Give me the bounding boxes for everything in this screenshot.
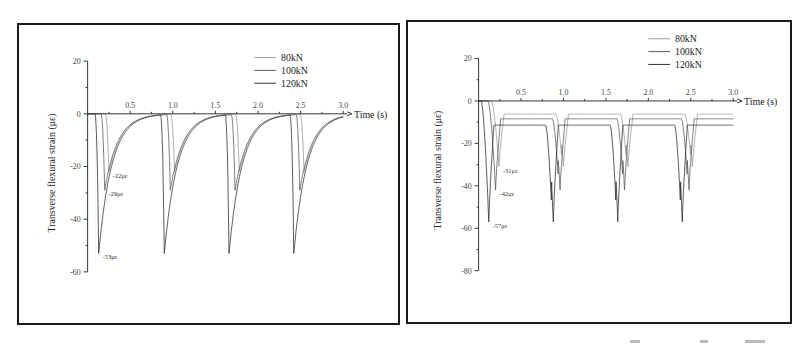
- x-tick-label: 1.0: [559, 88, 569, 97]
- series-line-80kN: [88, 114, 344, 172]
- peak-annotation: -29με: [109, 190, 124, 197]
- x-tick-label: 0.5: [125, 101, 135, 110]
- x-tick-label: 1.5: [601, 88, 611, 97]
- left-chart-panel: 200-20-40-600.51.01.52.02.53.0Time (s)Tr…: [17, 23, 400, 325]
- x-tick-label: 1.0: [168, 101, 178, 110]
- caption-fragment-mark: [630, 340, 640, 343]
- x-tick-label: 2.5: [296, 101, 306, 110]
- y-tick-label: 20: [73, 57, 81, 66]
- x-axis-arrow-icon: [347, 112, 352, 116]
- legend-label: 100kN: [281, 65, 308, 76]
- x-tick-label: 0.5: [516, 88, 526, 97]
- y-tick-label: -20: [461, 139, 472, 148]
- series-line-80kN: [479, 101, 734, 167]
- x-axis-arrow-icon: [737, 99, 742, 103]
- x-tick-label: 3.0: [338, 101, 348, 110]
- legend-label: 80kN: [281, 52, 303, 63]
- peak-annotation: -53με: [103, 253, 118, 260]
- y-tick-label: -20: [70, 162, 81, 171]
- series-line-100kN: [88, 114, 344, 190]
- cropped-caption-fragment: [0, 335, 810, 345]
- x-tick-label: 2.5: [686, 88, 696, 97]
- peak-annotation: -42με: [500, 190, 515, 197]
- peak-annotation: -22με: [113, 172, 128, 179]
- y-axis-title: Transverse flexural strain (με): [46, 114, 58, 233]
- x-axis-title: Time (s): [354, 109, 387, 121]
- left-strain-chart: 200-20-40-600.51.01.52.02.53.0Time (s)Tr…: [19, 25, 398, 323]
- legend-label: 80kN: [675, 33, 697, 44]
- legend-label: 120kN: [675, 59, 702, 70]
- legend-label: 120kN: [281, 78, 308, 89]
- x-tick-label: 2.0: [643, 88, 653, 97]
- y-tick-label: -40: [70, 215, 81, 224]
- right-strain-chart: 200-20-40-60-800.51.01.52.02.53.0Time (s…: [408, 22, 790, 322]
- caption-fragment-mark: [700, 340, 708, 343]
- series-line-120kN: [88, 114, 344, 254]
- y-tick-label: -60: [461, 224, 472, 233]
- x-axis-title: Time (s): [744, 96, 777, 108]
- peak-annotation: -57με: [493, 222, 508, 229]
- right-chart-panel: 200-20-40-60-800.51.01.52.02.53.0Time (s…: [406, 20, 792, 324]
- y-tick-label: 0: [77, 110, 81, 119]
- peak-annotation: -31με: [503, 167, 518, 174]
- x-tick-label: 3.0: [728, 88, 738, 97]
- x-tick-label: 1.5: [210, 101, 220, 110]
- y-tick-label: -80: [461, 267, 472, 276]
- caption-fragment-mark: [745, 340, 765, 343]
- legend-label: 100kN: [675, 46, 702, 57]
- y-tick-label: -60: [70, 268, 81, 277]
- y-tick-label: 0: [468, 97, 472, 106]
- y-axis-title: Transverse flexural strain (με): [432, 111, 444, 230]
- x-tick-label: 2.0: [253, 101, 263, 110]
- y-tick-label: 20: [464, 54, 472, 63]
- y-tick-label: -40: [461, 182, 472, 191]
